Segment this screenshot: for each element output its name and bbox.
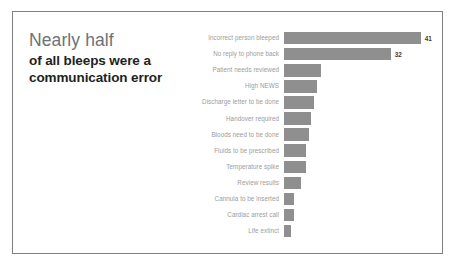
- bar: [284, 128, 309, 141]
- bar-row: Patient needs reviewed: [183, 62, 438, 78]
- bar-track: [284, 191, 438, 207]
- bar-track: [284, 110, 438, 126]
- bar-row: No reply to phone back32: [183, 46, 438, 62]
- bar-row: Discharge letter to be done: [183, 94, 438, 110]
- bar-value-label: 32: [395, 51, 402, 58]
- bar: [284, 177, 301, 190]
- bar-category-label: Life extinct: [183, 227, 284, 235]
- bar-row: Incorrect person bleeped41: [183, 30, 438, 46]
- horizontal-bar-chart: Incorrect person bleeped41No reply to ph…: [183, 30, 438, 241]
- bar: [284, 64, 321, 77]
- bar-track: [284, 78, 438, 94]
- bar: [284, 48, 391, 61]
- bar-category-label: Review results: [183, 179, 284, 187]
- bar-track: [284, 62, 438, 78]
- bar-category-label: High NEWS: [183, 82, 284, 90]
- bar: [284, 161, 306, 174]
- bar-row: Temperature spike: [183, 159, 438, 175]
- bar-category-label: Temperature spike: [183, 163, 284, 171]
- bar-track: 41: [284, 30, 438, 46]
- slide-frame: Nearly half of all bleeps were a communi…: [12, 11, 443, 254]
- bar-category-label: Cannula to be inserted: [183, 195, 284, 203]
- bar-row: Life extinct: [183, 223, 438, 239]
- bar-track: [284, 159, 438, 175]
- bar-track: [284, 127, 438, 143]
- bar-category-label: Handover required: [183, 115, 284, 123]
- bar-row: Cardiac arrest call: [183, 207, 438, 223]
- page-title: Nearly half of all bleeps were a communi…: [29, 30, 187, 86]
- bar-row: Cannula to be inserted: [183, 191, 438, 207]
- bar: [284, 144, 306, 157]
- bar-track: [284, 143, 438, 159]
- bar-value-label: 41: [425, 35, 432, 42]
- bar-track: [284, 175, 438, 191]
- bar-track: 32: [284, 46, 438, 62]
- bar-row: Fluids to be prescribed: [183, 143, 438, 159]
- bar-category-label: Patient needs reviewed: [183, 66, 284, 74]
- bar-track: [284, 94, 438, 110]
- title-lead-text: Nearly half: [29, 30, 187, 51]
- bar-row: High NEWS: [183, 78, 438, 94]
- bar-track: [284, 207, 438, 223]
- bar-category-label: Discharge letter to be done: [183, 98, 284, 106]
- bar: [284, 80, 317, 93]
- bar: [284, 193, 294, 206]
- bar-category-label: Fluids to be prescribed: [183, 147, 284, 155]
- bar-track: [284, 223, 438, 239]
- bar-category-label: Cardiac arrest call: [183, 211, 284, 219]
- bar-row: Review results: [183, 175, 438, 191]
- bar: [284, 112, 311, 125]
- bar-row: Handover required: [183, 110, 438, 126]
- title-rest-text: of all bleeps were a communication error: [29, 53, 187, 86]
- bar-category-label: No reply to phone back: [183, 50, 284, 58]
- bar: [284, 209, 294, 222]
- bar: [284, 32, 421, 45]
- bar-row: Bloods need to be done: [183, 127, 438, 143]
- bar-category-label: Incorrect person bleeped: [183, 34, 284, 42]
- bar: [284, 225, 291, 238]
- bar: [284, 96, 314, 109]
- bar-category-label: Bloods need to be done: [183, 131, 284, 139]
